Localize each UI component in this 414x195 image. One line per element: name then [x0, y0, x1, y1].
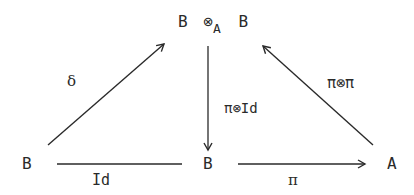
- tensor-symbol: ⊗: [203, 12, 213, 31]
- node-top: B ⊗A B: [178, 14, 248, 30]
- node-top-left: B: [178, 12, 188, 31]
- node-bottom-right: A: [387, 156, 397, 172]
- arrow-pi-tensor-pi: [263, 46, 373, 145]
- label-id: Id: [92, 173, 110, 188]
- node-bottom-left: B: [22, 156, 32, 172]
- label-pi-tensor-id: π⊗Id: [224, 101, 258, 115]
- tensor-subscript: A: [213, 21, 221, 36]
- label-pi-tensor-pi: π⊗π: [327, 76, 354, 91]
- label-delta: δ: [67, 74, 76, 89]
- node-top-right: B: [238, 12, 248, 31]
- label-pi: π: [288, 173, 298, 188]
- node-bottom-center: B: [203, 156, 213, 172]
- arrow-delta: [48, 44, 164, 145]
- commutative-diagram: B ⊗A B B B A δ π⊗Id π⊗π Id π: [0, 0, 414, 195]
